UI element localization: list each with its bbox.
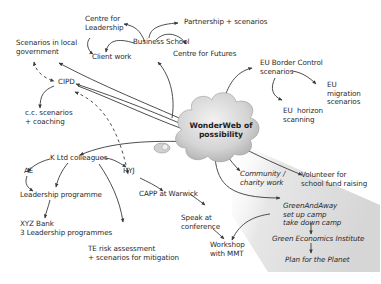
node-centre-for-futures: Centre for Futures	[173, 50, 236, 59]
node-plan-for-planet: Plan for the Planet	[285, 256, 349, 265]
node-green-economics-institute: Green Economics Institute	[272, 235, 364, 244]
node-greenandaway: GreenAndAway set up camp take down camp	[283, 202, 341, 228]
node-xyz-bank: XYZ Bank 3 Leadership programmes	[20, 220, 112, 237]
node-capp-warwick: CAPP at Warwick	[139, 190, 198, 199]
node-eu-migration: EU migration scenarios	[327, 81, 361, 107]
node-workshop-mmt: Workshop with MMT	[210, 241, 245, 258]
node-ae: AE	[24, 167, 33, 176]
node-business-school: Business School	[133, 38, 189, 47]
node-cipd: CIPD	[58, 78, 75, 87]
node-eu-horizon-scanning: EU horizon scanning	[283, 107, 323, 124]
node-partnership-scenarios: Partnership + scenarios	[184, 18, 267, 27]
node-leadership-programme: Leadership programme	[20, 191, 102, 200]
node-volunteer-fund-raising: Volunteer for school fund raising	[301, 171, 367, 188]
node-hyj: HYJ	[123, 167, 135, 176]
node-cc-scenarios-coaching: c.c. scenarios + coaching	[25, 109, 73, 126]
node-eu-border-control: EU Border Control scenarios	[260, 59, 323, 76]
node-centre-for-leadership: Centre for Leadership	[85, 15, 124, 32]
node-client-work: Client work	[92, 53, 131, 62]
node-community-charity: Community / charity work	[240, 170, 285, 187]
center-node-label: WonderWeb of possibility	[186, 121, 256, 139]
node-speak-conference: Speak at conference	[181, 214, 220, 231]
node-scenarios-local-government: Scenarios in local government	[16, 39, 77, 56]
node-k-ltd-colleagues: K Ltd colleagues	[50, 154, 108, 163]
node-te-risk-assessment: TE risk assessment + scenarios for mitig…	[88, 245, 179, 262]
